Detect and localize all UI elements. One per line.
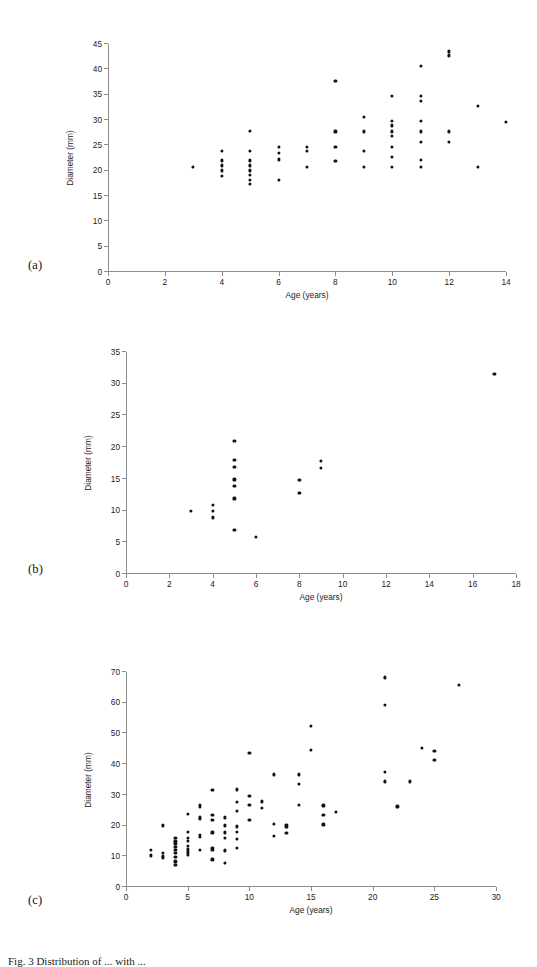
data-point <box>149 849 152 852</box>
y-tick-label: 10 <box>111 852 120 860</box>
y-tick-label: 25 <box>93 141 102 149</box>
y-tick-mark <box>122 446 126 447</box>
y-tick-mark <box>104 220 108 221</box>
x-tick-label: 4 <box>219 278 224 286</box>
data-point <box>161 856 164 859</box>
data-point <box>249 173 252 176</box>
y-tick-label: 15 <box>111 475 120 483</box>
data-point <box>198 818 201 821</box>
y-tick-mark <box>122 702 126 703</box>
x-tick-label: 15 <box>306 893 315 901</box>
data-point <box>419 94 422 97</box>
data-point <box>322 804 325 807</box>
y-tick-label: 60 <box>111 699 120 707</box>
data-point <box>433 750 436 753</box>
x-tick-label: 18 <box>511 580 520 588</box>
x-tick-mark <box>429 574 430 578</box>
data-point <box>192 166 195 169</box>
data-point <box>277 178 280 181</box>
x-tick-mark <box>343 574 344 578</box>
data-point <box>391 124 394 127</box>
y-tick-label: 0 <box>97 268 102 276</box>
x-tick-label: 10 <box>245 893 254 901</box>
panel-c: (c) Age (years) Diameter (mm) 0102030405… <box>0 650 537 965</box>
y-tick-label: 45 <box>93 40 102 48</box>
x-tick-mark <box>506 272 507 276</box>
y-tick-mark <box>104 43 108 44</box>
data-point <box>248 752 251 755</box>
x-tick-mark <box>256 574 257 578</box>
data-point <box>233 529 236 532</box>
data-point <box>419 65 422 68</box>
data-point <box>362 150 365 153</box>
y-tick-label: 35 <box>111 348 120 356</box>
data-point <box>235 788 238 791</box>
panel-b: (b) Age (years) Diameter (mm) 0510152025… <box>0 330 537 630</box>
x-tick-label: 0 <box>106 278 111 286</box>
x-tick-label: 0 <box>124 580 129 588</box>
y-tick-label: 10 <box>93 217 102 225</box>
data-point <box>285 831 288 834</box>
data-point <box>433 759 436 762</box>
data-point <box>277 145 280 148</box>
y-tick-label: 15 <box>93 192 102 200</box>
data-point <box>249 130 252 133</box>
y-tick-label: 35 <box>93 91 102 99</box>
data-point <box>223 831 226 834</box>
data-point <box>334 130 337 133</box>
data-point <box>235 837 238 840</box>
y-tick-mark <box>122 383 126 384</box>
data-point <box>285 825 288 828</box>
x-tick-mark <box>169 574 170 578</box>
x-tick-mark <box>516 574 517 578</box>
data-point <box>248 819 251 822</box>
data-point <box>457 683 460 686</box>
y-tick-mark <box>104 68 108 69</box>
data-point <box>248 794 251 797</box>
figure-caption: Fig. 3 Distribution of ... with ... <box>8 955 528 967</box>
data-point <box>220 164 223 167</box>
data-point <box>305 145 308 148</box>
y-tick-mark <box>122 414 126 415</box>
data-point <box>235 825 238 828</box>
y-tick-label: 40 <box>93 65 102 73</box>
x-tick-mark <box>165 272 166 276</box>
data-point <box>309 749 312 752</box>
x-tick-label: 14 <box>425 580 434 588</box>
x-tick-label: 16 <box>468 580 477 588</box>
x-tick-label: 0 <box>124 893 129 901</box>
y-tick-label: 30 <box>93 116 102 124</box>
data-point <box>298 479 301 482</box>
data-point <box>211 858 214 861</box>
data-point <box>249 159 252 162</box>
data-point <box>334 811 337 814</box>
data-point <box>248 804 251 807</box>
y-tick-mark <box>122 541 126 542</box>
data-point <box>223 861 226 864</box>
data-point <box>448 130 451 133</box>
data-point <box>249 150 252 153</box>
data-point <box>362 115 365 118</box>
data-point <box>309 724 312 727</box>
data-point <box>476 105 479 108</box>
data-point <box>233 484 236 487</box>
data-point <box>174 863 177 866</box>
data-point <box>298 491 301 494</box>
y-tick-mark <box>104 195 108 196</box>
y-tick-label: 70 <box>111 668 120 676</box>
x-tick-label: 8 <box>333 278 338 286</box>
data-point <box>419 166 422 169</box>
data-point <box>223 850 226 853</box>
data-point <box>220 159 223 162</box>
x-tick-label: 14 <box>501 278 510 286</box>
data-point <box>189 510 192 513</box>
data-point <box>235 801 238 804</box>
data-canvas-c <box>126 672 496 887</box>
panel-a: (a) Age (years) Diameter (mm) 0510152025… <box>0 0 537 320</box>
data-point <box>220 150 223 153</box>
data-point <box>260 806 263 809</box>
y-tick-label: 20 <box>111 443 120 451</box>
data-point <box>260 800 263 803</box>
y-tick-label: 25 <box>111 411 120 419</box>
